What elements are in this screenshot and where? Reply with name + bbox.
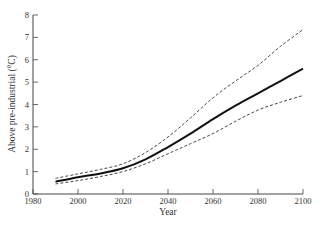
y-tick-label: 3	[25, 122, 29, 132]
x-tick-label: 2000	[70, 196, 87, 206]
central-estimate-line	[56, 69, 304, 182]
x-axis-label: Year	[159, 207, 177, 217]
x-tick-label: 2040	[160, 196, 177, 206]
y-tick-label: 5	[25, 77, 29, 87]
y-tick-label: 6	[25, 55, 29, 65]
y-tick-label: 1	[25, 167, 29, 177]
x-tick-label: 2080	[250, 196, 267, 206]
x-tick-label: 2020	[115, 196, 132, 206]
y-tick-label: 7	[25, 32, 29, 42]
y-axis-label: Above pre-industrial (°C)	[7, 55, 18, 153]
x-tick-label: 2100	[295, 196, 312, 206]
y-tick-label: 2	[25, 144, 29, 154]
axes: 1980200020202040206020802100012345678	[25, 10, 312, 206]
y-tick-label: 0	[25, 189, 29, 199]
y-tick-label: 8	[25, 10, 29, 20]
plot-area	[56, 30, 304, 184]
y-tick-label: 4	[25, 100, 30, 110]
temperature-projection-chart: 1980200020202040206020802100012345678 Ye…	[0, 0, 321, 229]
upper-bound-line	[56, 30, 304, 179]
x-tick-label: 2060	[205, 196, 222, 206]
